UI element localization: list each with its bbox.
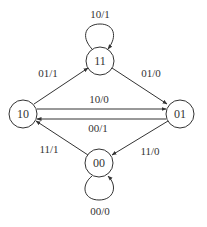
state-01: 01 (166, 100, 194, 128)
edge-01-to-00: 11/0 (112, 121, 168, 157)
edge-label-00-10: 11/1 (39, 143, 58, 155)
edge-11-to-01: 01/0 (112, 67, 167, 104)
edge-label-11-01: 01/0 (141, 67, 161, 79)
edge-10-to-01: 10/0 (37, 93, 166, 109)
edge-11-self-loop: 10/1 (86, 8, 114, 49)
edge-label-01-00: 11/0 (140, 145, 160, 157)
edge-label-01-10: 00/1 (88, 122, 108, 134)
edge-01-to-10: 00/1 (37, 119, 166, 134)
state-label-01: 01 (174, 107, 186, 121)
state-label-10: 10 (17, 107, 29, 121)
edge-label-11-self: 10/1 (90, 8, 110, 20)
state-00: 00 (85, 149, 113, 177)
edge-00-to-10: 11/1 (36, 121, 88, 155)
edge-label-00-self: 00/0 (90, 205, 110, 217)
state-11: 11 (86, 47, 114, 75)
state-label-11: 11 (94, 54, 106, 68)
edge-10-to-11: 01/1 (34, 67, 88, 104)
state-label-00: 00 (93, 156, 105, 170)
state-10: 10 (9, 100, 37, 128)
edge-label-10-01: 10/0 (89, 93, 109, 105)
edge-label-10-11: 01/1 (38, 67, 58, 79)
state-diagram: 10/1 01/1 01/0 10/0 00/1 11/1 11/0 (0, 0, 207, 227)
edge-00-self-loop: 00/0 (85, 176, 114, 217)
